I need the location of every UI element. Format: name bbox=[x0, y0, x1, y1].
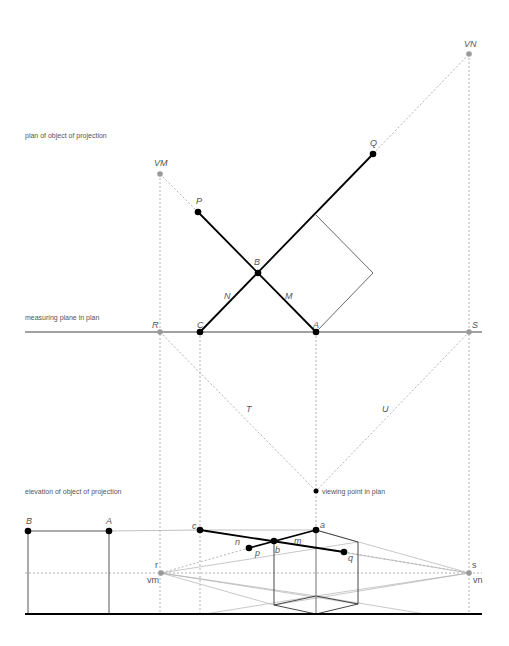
point-B bbox=[255, 270, 262, 277]
height-transfer-line bbox=[109, 530, 200, 531]
label-c: c bbox=[192, 521, 197, 531]
plan-points bbox=[157, 51, 472, 493]
point-viewing bbox=[314, 489, 319, 494]
point-q bbox=[341, 549, 348, 556]
label-U: U bbox=[382, 404, 389, 414]
label-measuring-plane: measuring plane in plan bbox=[25, 314, 99, 322]
label-VM: VM bbox=[154, 158, 168, 168]
line-T bbox=[160, 332, 316, 491]
p-to-vm-line bbox=[161, 548, 249, 573]
label-n: n bbox=[235, 537, 240, 547]
label-S: S bbox=[472, 320, 478, 330]
point-Q bbox=[370, 151, 377, 158]
label-M: M bbox=[285, 291, 293, 301]
label-P: P bbox=[196, 196, 202, 206]
point-vm bbox=[158, 570, 164, 576]
point-VN bbox=[466, 51, 472, 57]
point-elev-A bbox=[106, 528, 113, 535]
label-R: R bbox=[152, 320, 159, 330]
label-s: s bbox=[472, 560, 477, 570]
plan-square bbox=[316, 215, 373, 332]
label-p: p bbox=[254, 548, 260, 558]
label-plan-section: plan of object of projection bbox=[25, 132, 107, 140]
label-N: N bbox=[224, 291, 231, 301]
label-Q: Q bbox=[370, 138, 377, 148]
label-elev-A: A bbox=[105, 516, 112, 526]
vm-to-p-line bbox=[160, 174, 198, 212]
elevation-points bbox=[25, 527, 472, 576]
point-VM bbox=[157, 171, 163, 177]
label-vm: vm bbox=[147, 575, 159, 585]
label-viewing-point: viewing point in plan bbox=[322, 488, 385, 496]
label-b: b bbox=[275, 545, 280, 555]
q-to-vn-line bbox=[373, 54, 469, 154]
point-c bbox=[197, 527, 204, 534]
point-vn bbox=[466, 570, 472, 576]
label-B: B bbox=[254, 257, 260, 267]
label-vn: vn bbox=[473, 575, 483, 585]
plan-object bbox=[198, 154, 373, 332]
label-VN: VN bbox=[464, 39, 477, 49]
line-CQ bbox=[200, 154, 373, 332]
point-b bbox=[271, 538, 278, 545]
label-q: q bbox=[348, 553, 353, 563]
label-C: C bbox=[197, 320, 204, 330]
point-R bbox=[157, 329, 163, 335]
label-r: r bbox=[155, 560, 158, 570]
perspective-rays bbox=[161, 530, 469, 614]
point-elev-B bbox=[25, 528, 32, 535]
label-a: a bbox=[320, 520, 325, 530]
point-P bbox=[195, 209, 202, 216]
label-elev-B: B bbox=[26, 516, 32, 526]
line-U bbox=[316, 332, 469, 491]
perspective-drawing: VN VM Q P B N M R C A S T U plan of obje… bbox=[0, 0, 509, 646]
label-A: A bbox=[312, 320, 319, 330]
label-elevation-section: elevation of object of projection bbox=[25, 488, 122, 496]
label-T: T bbox=[246, 404, 253, 414]
elevation-height-box bbox=[28, 531, 109, 614]
point-p bbox=[246, 545, 253, 552]
point-a bbox=[313, 527, 320, 534]
label-m: m bbox=[294, 536, 302, 546]
point-S bbox=[466, 329, 472, 335]
